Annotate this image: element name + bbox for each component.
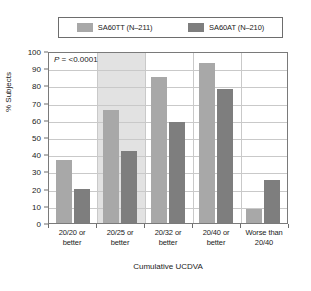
x-axis-tick-label: Worse than20/40 [240, 224, 288, 252]
legend-swatch-sa60tt [77, 23, 93, 32]
x-axis-tick-mark [240, 224, 241, 228]
y-axis-tick-label: 30 [32, 168, 41, 177]
chart-figure: SA60TT (N–211) SA60AT (N–210) 1009080706… [0, 0, 311, 291]
bar-group [192, 53, 240, 223]
y-axis-tick-label: 0 [37, 220, 41, 229]
bar [169, 122, 185, 223]
bar [74, 189, 90, 223]
y-axis-tick-label: 70 [32, 99, 41, 108]
bar-group [49, 53, 97, 223]
p-value-annotation: P = <0.0001 [54, 55, 98, 64]
plot-area [48, 52, 288, 224]
legend-entry-sa60tt: SA60TT (N–211) [77, 23, 153, 32]
x-axis-tick-label: 20/20 orbetter [48, 224, 96, 252]
legend-swatch-sa60at [188, 23, 204, 32]
bar [103, 110, 119, 223]
x-axis-label: Cumulative UCDVA [48, 262, 288, 271]
x-axis-tick-mark [192, 224, 193, 228]
x-axis-tick-label: 20/32 orbetter [144, 224, 192, 252]
bar [246, 209, 262, 223]
bar [56, 160, 72, 223]
bar-series-container [49, 53, 287, 223]
p-value-text: = <0.0001 [59, 55, 97, 64]
bar [217, 89, 233, 223]
bar-group [97, 53, 145, 223]
x-axis-tick-mark [48, 224, 49, 228]
y-axis-tick-label: 100 [28, 48, 41, 57]
x-axis-tick-mark [288, 224, 289, 228]
legend-entry-sa60at: SA60AT (N–210) [188, 23, 264, 32]
bar [264, 180, 280, 223]
legend-label-sa60tt: SA60TT (N–211) [98, 23, 153, 32]
legend-label-sa60at: SA60AT (N–210) [209, 23, 264, 32]
bar-group [144, 53, 192, 223]
y-axis-tick-label: 50 [32, 134, 41, 143]
bar-group [239, 53, 287, 223]
x-axis-tick-mark [144, 224, 145, 228]
bar [151, 77, 167, 223]
bar [121, 151, 137, 223]
y-axis-tick-label: 80 [32, 82, 41, 91]
y-axis-tick-label: 40 [32, 151, 41, 160]
y-axis-label: % Subjects [4, 72, 13, 112]
x-axis-tick-label: 20/25 orbetter [96, 224, 144, 252]
y-axis-tick-label: 60 [32, 116, 41, 125]
y-axis-tick-label: 20 [32, 185, 41, 194]
x-axis-ticks: 20/20 orbetter20/25 orbetter20/32 orbett… [48, 224, 288, 252]
x-axis-tick-mark [96, 224, 97, 228]
bar [199, 63, 215, 223]
y-axis-tick-label: 10 [32, 202, 41, 211]
x-axis-tick-label: 20/40 orbetter [192, 224, 240, 252]
y-axis-tick-label: 90 [32, 65, 41, 74]
chart-legend: SA60TT (N–211) SA60AT (N–210) [58, 17, 283, 38]
